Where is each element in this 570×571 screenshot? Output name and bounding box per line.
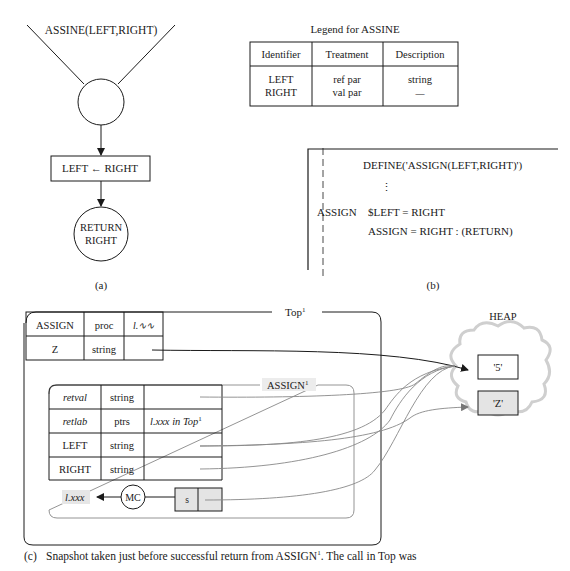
legend-row-description: string <box>408 74 433 85</box>
pointer-arrows <box>152 350 468 500</box>
assign-row-name: RIGHT <box>59 464 92 475</box>
caption-text-2: . The call in Top was <box>321 550 417 562</box>
legend-title: Legend for ASSINE <box>310 23 399 35</box>
panel-a-caption: (a) <box>95 279 108 292</box>
assign-row-type: string <box>110 392 135 403</box>
heap-cell-value: 'Z' <box>493 398 503 409</box>
assign-row-name: LEFT <box>62 440 88 451</box>
code-line-define: DEFINE('ASSIGN(LEFT,RIGHT)') <box>363 159 523 172</box>
assign-row-value: l.xxx in Top1 <box>150 415 202 427</box>
entry-node <box>78 79 124 125</box>
top-symbol-table: ASSIGN proc l.∿∿ Z string <box>26 312 163 360</box>
code-line-left: $LEFT = RIGHT <box>368 206 445 218</box>
panel-b-caption: (b) <box>427 279 440 292</box>
top-row-type: string <box>92 344 117 355</box>
return-node-line1: RETURN <box>80 222 122 233</box>
legend-row-treatment: ref par <box>333 74 361 85</box>
stack-cell-label: s <box>185 495 189 505</box>
assign-symbol-table: retval string retlab ptrs l.xxx in Top1 … <box>49 385 222 480</box>
assign-row-name: retval <box>63 392 87 403</box>
mc-label: MC <box>125 492 141 503</box>
code-ellipsis: ⋮ <box>381 181 392 193</box>
legend-col-description: Description <box>396 49 446 60</box>
top-row-value: l.∿∿ <box>133 320 155 331</box>
assign-frame-label: ASSIGN1 <box>267 379 309 391</box>
panel-c-snapshot: Top1 ASSIGN proc l.∿∿ Z string ASSIGN1 r… <box>24 306 550 545</box>
assign-row-type: string <box>110 440 135 451</box>
figure-caption: (c)Snapshot taken just before successful… <box>24 549 417 562</box>
legend-row-identifier: RIGHT <box>265 87 298 98</box>
top-row-name: Z <box>52 344 58 355</box>
caption-tag: (c) <box>24 550 46 562</box>
legend-row-description: — <box>415 88 426 98</box>
code-label-assign: ASSIGN <box>317 206 357 218</box>
legend-row-identifier: LEFT <box>268 74 294 85</box>
top-row-name: ASSIGN <box>36 320 74 331</box>
assign-step-text: LEFT ← RIGHT <box>62 162 138 174</box>
legend-table: Legend for ASSINE Identifier Treatment D… <box>250 23 458 106</box>
heap-cell-value: '5' <box>493 362 502 373</box>
return-node-line2: RIGHT <box>85 235 118 246</box>
assign-row-type: ptrs <box>114 416 130 427</box>
procedure-header-label: ASSINE(LEFT,RIGHT) <box>45 24 158 37</box>
pointer-stack-to-5 <box>205 366 455 500</box>
heap: HEAP '5' 'Z' <box>451 311 550 415</box>
assign-row-name: retlab <box>63 416 88 427</box>
top-row-type: proc <box>95 320 114 331</box>
figure-canvas: ASSINE(LEFT,RIGHT) LEFT ← RIGHT RETURN R… <box>0 0 570 571</box>
panel-a-flowchart: ASSINE(LEFT,RIGHT) LEFT ← RIGHT RETURN R… <box>27 24 175 292</box>
panel-b-code: DEFINE('ASSIGN(LEFT,RIGHT)') ⋮ ASSIGN $L… <box>308 148 558 292</box>
legend-col-treatment: Treatment <box>326 49 369 60</box>
code-line-return: ASSIGN = RIGHT : (RETURN) <box>368 225 513 238</box>
top-frame-label: Top1 <box>285 306 306 318</box>
pointer-left-to-5 <box>200 366 455 446</box>
return-chain: l.xxx MC s <box>62 485 222 511</box>
pointer-retval-to-5 <box>200 366 455 397</box>
caption-text: Snapshot taken just before successful re… <box>46 550 317 562</box>
legend-col-identifier: Identifier <box>261 49 301 60</box>
return-node <box>74 207 128 261</box>
legend-row-treatment: val par <box>333 87 362 98</box>
pointer-z-to-5 <box>152 350 468 370</box>
pointer-to-z <box>200 407 468 446</box>
return-label: l.xxx <box>65 492 85 503</box>
pointer-right-to-5 <box>200 366 455 469</box>
assign-row-type: string <box>110 464 135 475</box>
